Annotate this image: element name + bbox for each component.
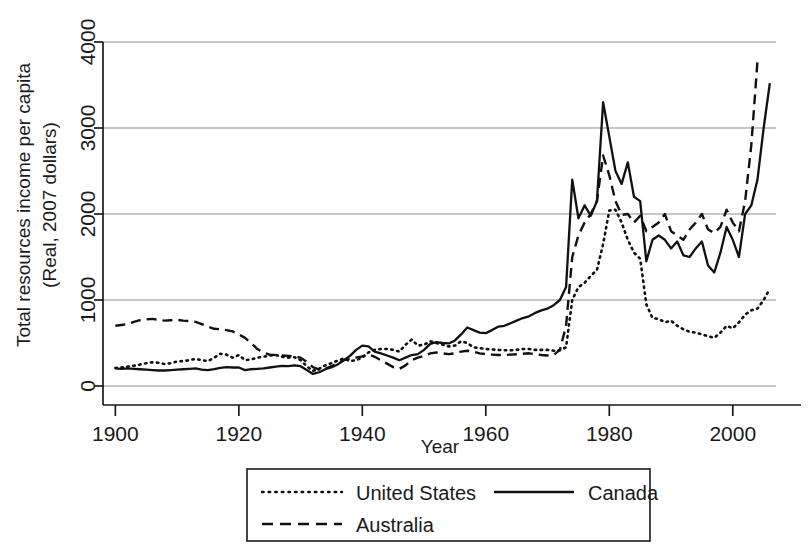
legend-label-australia: Australia — [356, 514, 435, 536]
y-tick-label-2000: 2000 — [76, 191, 99, 238]
legend-box — [247, 469, 650, 541]
legend: United States Canada Australia — [247, 469, 659, 541]
series-group — [115, 61, 769, 374]
legend-label-united-states: United States — [356, 482, 476, 504]
legend-label-canada: Canada — [588, 482, 659, 504]
y-axis-group: 01000200030004000 — [76, 19, 103, 392]
x-tick-label-1900: 1900 — [92, 422, 139, 445]
chart-svg: 190019201940196019802000 010002000300040… — [0, 0, 811, 555]
series-line-united-states — [115, 210, 769, 371]
y-tick-label-3000: 3000 — [76, 105, 99, 152]
x-tick-label-2000: 2000 — [709, 422, 756, 445]
x-tick-label-1980: 1980 — [586, 422, 633, 445]
y-tick-label-0: 0 — [76, 380, 99, 392]
x-axis-title: Year — [421, 436, 460, 457]
x-tick-label-1940: 1940 — [339, 422, 386, 445]
y-axis-title-line1: Total resources income per capita — [13, 63, 34, 348]
series-line-australia — [115, 61, 757, 370]
x-tick-label-1960: 1960 — [462, 422, 509, 445]
gridlines-group — [103, 42, 776, 386]
resources-income-chart-figure: 190019201940196019802000 010002000300040… — [0, 0, 811, 555]
y-tick-label-1000: 1000 — [76, 277, 99, 324]
series-line-canada — [115, 83, 769, 374]
y-tick-label-4000: 4000 — [76, 19, 99, 66]
y-axis-title-line2: (Real, 2007 dollars) — [39, 122, 60, 288]
x-tick-label-1920: 1920 — [215, 422, 262, 445]
